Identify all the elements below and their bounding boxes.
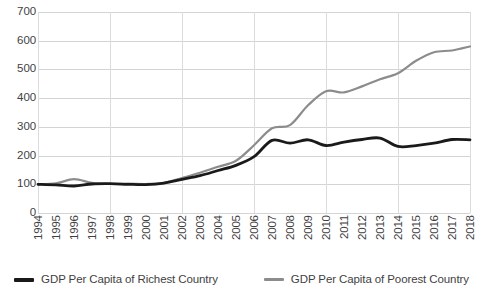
x-axis-tick-label: 2004 [211, 215, 225, 261]
x-axis-tick-label: 2009 [301, 215, 315, 261]
y-axis-tick-label: 500 [4, 63, 36, 75]
y-axis-tick-label: 700 [4, 6, 36, 18]
x-axis-tick-label: 2010 [319, 215, 333, 261]
x-axis-tick-label: 2006 [247, 215, 261, 261]
x-axis-tick-label: 2018 [463, 215, 477, 261]
y-axis-tick-label: 100 [4, 178, 36, 190]
gridline [38, 213, 470, 214]
legend-line-swatch-icon [14, 278, 34, 282]
y-axis-tick-label: 400 [4, 92, 36, 104]
y-axis-tick-label: 600 [4, 35, 36, 47]
chart-legend: GDP Per Capita of Richest CountryGDP Per… [0, 268, 483, 291]
x-axis-tick-label: 1998 [103, 215, 117, 261]
x-axis: 1994199519961997199819992000200120022003… [38, 215, 470, 263]
x-axis-tick-label: 1997 [85, 215, 99, 261]
x-axis-tick-label: 2007 [265, 215, 279, 261]
y-axis-tick-label: 200 [4, 150, 36, 162]
x-axis-tick-label: 2003 [193, 215, 207, 261]
x-axis-tick-label: 2013 [373, 215, 387, 261]
x-axis-tick-label: 2015 [409, 215, 423, 261]
plot-area [38, 12, 470, 213]
y-axis-tick-label: 300 [4, 121, 36, 133]
x-axis-tick-label: 1994 [31, 215, 45, 261]
legend-item[interactable]: GDP Per Capita of Richest Country [14, 273, 218, 286]
series-line [38, 46, 470, 184]
legend-label: GDP Per Capita of Poorest Country [291, 273, 469, 286]
x-axis-tick-label: 2014 [391, 215, 405, 261]
legend-item[interactable]: GDP Per Capita of Poorest Country [264, 273, 469, 286]
y-axis: 7006005004003002001000 [0, 0, 36, 225]
x-axis-tick-label: 1999 [121, 215, 135, 261]
gdp-per-capita-line-chart: 7006005004003002001000 19941995199619971… [0, 0, 483, 291]
x-axis-tick-label: 2012 [355, 215, 369, 261]
legend-line-swatch-icon [264, 278, 284, 281]
x-axis-tick-label: 2017 [445, 215, 459, 261]
x-axis-tick-label: 2000 [139, 215, 153, 261]
x-axis-tick-label: 2001 [157, 215, 171, 261]
x-axis-tick-label: 2008 [283, 215, 297, 261]
vertical-gridline [470, 12, 471, 213]
series-lines [38, 12, 470, 213]
x-axis-tick-label: 2011 [337, 215, 351, 261]
x-axis-tick-label: 1995 [49, 215, 63, 261]
x-axis-tick-label: 2005 [229, 215, 243, 261]
legend-label: GDP Per Capita of Richest Country [41, 273, 218, 286]
x-axis-tick-label: 1996 [67, 215, 81, 261]
x-axis-tick-label: 2016 [427, 215, 441, 261]
x-axis-tick-label: 2002 [175, 215, 189, 261]
